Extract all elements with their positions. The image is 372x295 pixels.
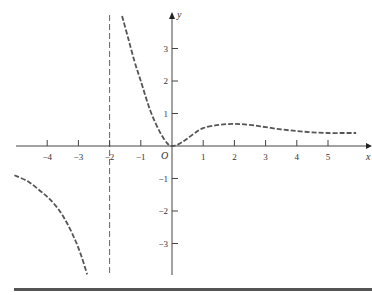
y-tick-label: 2 xyxy=(164,76,169,86)
axes: xyO xyxy=(16,9,372,275)
x-tick-label: −2 xyxy=(105,152,115,162)
y-tick-label: −1 xyxy=(158,174,168,184)
x-axis-label: x xyxy=(365,151,371,162)
x-tick-label: 4 xyxy=(295,152,300,162)
y-tick-label: 3 xyxy=(164,44,169,54)
function-graph: xyO −4−3−2−112345321−1−2−3 xyxy=(0,0,372,295)
x-tick-label: 5 xyxy=(326,152,331,162)
x-tick-label: −1 xyxy=(136,152,146,162)
y-tick-label: −3 xyxy=(158,239,168,249)
x-tick-label: 2 xyxy=(232,152,237,162)
curve-right-branch xyxy=(122,16,356,146)
origin-label: O xyxy=(161,150,168,161)
x-tick-label: 3 xyxy=(263,152,268,162)
y-tick-label: −2 xyxy=(158,206,168,216)
bottom-rule xyxy=(14,288,372,291)
x-tick-label: −3 xyxy=(74,152,84,162)
y-tick-label: 1 xyxy=(164,109,169,119)
x-axis-arrow-icon xyxy=(366,143,372,149)
y-axis-label: y xyxy=(176,9,182,20)
y-axis-arrow-icon xyxy=(169,12,175,19)
x-tick-label: −4 xyxy=(42,152,52,162)
x-tick-label: 1 xyxy=(201,152,206,162)
curves xyxy=(14,16,356,274)
curve-left-branch xyxy=(14,175,87,274)
